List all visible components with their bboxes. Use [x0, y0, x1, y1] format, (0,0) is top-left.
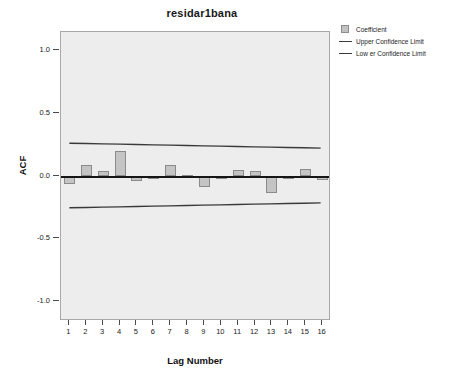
- x-tick-label: 2: [76, 325, 94, 337]
- y-tick: 0.0: [0, 171, 60, 181]
- x-tick: 8: [178, 320, 196, 337]
- y-tick-label: -0.5: [37, 233, 50, 243]
- x-axis-ticks: 12345678910111213141516: [60, 320, 330, 342]
- coefficient-bar: [115, 151, 126, 177]
- y-tick: -0.5: [0, 233, 60, 243]
- x-tick: 10: [211, 320, 229, 337]
- x-tick: 6: [144, 320, 162, 337]
- x-tick-label: 6: [144, 325, 162, 337]
- coefficient-bar: [64, 177, 75, 185]
- x-tick-label: 16: [313, 325, 331, 337]
- x-tick-label: 10: [211, 325, 229, 337]
- x-tick-label: 4: [110, 325, 128, 337]
- x-tick: 16: [313, 320, 331, 337]
- y-tick-mark: [53, 237, 59, 238]
- x-tick-label: 15: [296, 325, 314, 337]
- x-tick: 7: [161, 320, 179, 337]
- coefficient-bar: [266, 177, 277, 194]
- legend-item-label: Upper Confidence Limit: [356, 37, 424, 46]
- y-tick: -1.0: [0, 296, 60, 306]
- y-axis-title: ACF: [17, 136, 28, 196]
- x-tick: 4: [110, 320, 128, 337]
- legend-item[interactable]: Coefficient: [339, 24, 465, 35]
- x-tick-label: 14: [279, 325, 297, 337]
- x-tick-label: 9: [194, 325, 212, 337]
- x-tick-label: 1: [59, 325, 77, 337]
- x-tick-label: 3: [93, 325, 111, 337]
- x-tick: 14: [279, 320, 297, 337]
- x-tick-label: 11: [228, 325, 246, 337]
- legend-item-label: Low er Confidence Limit: [356, 49, 426, 58]
- y-tick-mark: [53, 49, 59, 50]
- upper-confidence-limit-line: [69, 143, 320, 148]
- x-tick: 9: [194, 320, 212, 337]
- x-tick: 1: [59, 320, 77, 337]
- x-tick-label: 13: [262, 325, 280, 337]
- x-tick: 12: [245, 320, 263, 337]
- legend-line-icon: [339, 48, 352, 59]
- plot-inner: [61, 32, 329, 319]
- x-tick-label: 7: [161, 325, 179, 337]
- legend-item[interactable]: Low er Confidence Limit: [339, 48, 465, 59]
- legend-item[interactable]: Upper Confidence Limit: [339, 36, 465, 47]
- x-tick: 11: [228, 320, 246, 337]
- acf-chart: residar1bana CoefficientUpper Confidence…: [0, 0, 465, 376]
- x-tick: 5: [127, 320, 145, 337]
- lower-confidence-limit-line: [69, 203, 320, 208]
- y-tick-label: 0.0: [40, 171, 50, 181]
- y-tick-mark: [53, 112, 59, 113]
- chart-title: residar1bana: [0, 7, 404, 19]
- y-tick-label: 0.5: [40, 108, 50, 118]
- y-tick-label: 1.0: [40, 45, 50, 55]
- y-tick: 1.0: [0, 45, 60, 55]
- plot-area: [60, 31, 330, 320]
- x-tick: 13: [262, 320, 280, 337]
- x-tick: 2: [76, 320, 94, 337]
- coefficient-bar: [199, 177, 210, 188]
- x-tick-label: 8: [178, 325, 196, 337]
- chart-legend: CoefficientUpper Confidence LimitLow er …: [339, 24, 465, 60]
- legend-item-label: Coefficient: [356, 25, 387, 34]
- x-tick-label: 5: [127, 325, 145, 337]
- x-axis-title: Lag Number: [60, 355, 330, 366]
- legend-swatch-icon: [339, 24, 352, 35]
- x-tick: 15: [296, 320, 314, 337]
- x-tick: 3: [93, 320, 111, 337]
- zero-reference-line: [61, 176, 329, 178]
- y-tick-mark: [53, 175, 59, 176]
- x-tick-label: 12: [245, 325, 263, 337]
- y-tick-mark: [53, 300, 59, 301]
- y-tick-label: -1.0: [37, 296, 50, 306]
- legend-line-icon: [339, 36, 352, 47]
- y-tick: 0.5: [0, 108, 60, 118]
